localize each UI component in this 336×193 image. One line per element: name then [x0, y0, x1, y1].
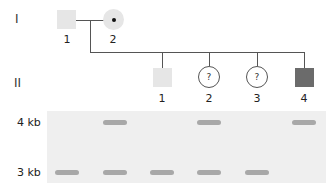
- individual-label: 3: [247, 92, 267, 105]
- question-mark-icon: ?: [207, 72, 212, 82]
- individual-ii-4-male-affected: [295, 68, 314, 87]
- individual-ii-3-female-unknown: ?: [246, 66, 268, 88]
- band-lane1-3kb: [55, 170, 79, 175]
- band-lane4-4kb: [197, 120, 221, 125]
- band-lane4-3kb: [197, 170, 221, 175]
- descent-line: [90, 20, 91, 52]
- individual-ii-2-female-unknown: ?: [198, 66, 220, 88]
- band-lane2-3kb: [103, 170, 127, 175]
- individual-label: 2: [199, 92, 219, 105]
- band-lane2-4kb: [103, 120, 127, 125]
- carrier-dot-icon: [112, 18, 116, 22]
- sibship-line: [90, 52, 305, 53]
- child-line: [162, 52, 163, 68]
- question-mark-icon: ?: [255, 72, 260, 82]
- band-lane3-3kb: [150, 170, 174, 175]
- band-lane5-3kb: [245, 170, 269, 175]
- band-lane6-4kb: [292, 120, 316, 125]
- size-label-3kb: 3 kb: [17, 166, 41, 179]
- individual-ii-1-male: [153, 68, 172, 87]
- individual-i-1-male: [57, 10, 76, 29]
- generation-label-ii: II: [14, 76, 21, 90]
- child-line: [209, 52, 210, 66]
- child-line: [304, 52, 305, 68]
- individual-label: 1: [152, 92, 172, 105]
- child-line: [257, 52, 258, 66]
- generation-label-i: I: [15, 12, 19, 26]
- individual-label: 4: [294, 92, 314, 105]
- individual-label: 2: [103, 33, 123, 46]
- individual-i-2-female-carrier: [103, 9, 124, 30]
- gel: [47, 111, 326, 183]
- size-label-4kb: 4 kb: [17, 116, 41, 129]
- individual-label: 1: [57, 33, 77, 46]
